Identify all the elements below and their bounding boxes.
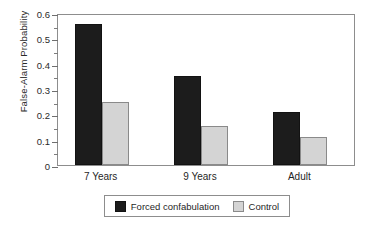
bar-forced-confabulation [273, 112, 300, 165]
chart-legend: Forced confabulationControl [104, 195, 290, 217]
y-tick-label: 0.6 [37, 10, 50, 20]
legend-label: Forced confabulation [131, 201, 220, 212]
y-tick-mark [52, 167, 58, 168]
y-axis-title: False-Alarm Probability [18, 0, 29, 137]
legend-item: Control [233, 201, 280, 212]
bar-forced-confabulation [174, 76, 201, 165]
legend-label: Control [249, 201, 280, 212]
y-tick-label: 0.4 [37, 61, 50, 71]
bar-forced-confabulation [75, 24, 102, 165]
x-axis-category-label: Adult [272, 171, 326, 182]
x-axis-category-label: 9 Years [173, 171, 227, 182]
y-tick-label: 0.3 [37, 86, 50, 96]
y-tick-label: 0.1 [37, 137, 50, 147]
plot-inner: 00.10.20.30.40.50.6 [58, 15, 354, 165]
gray-square-swatch-icon [233, 201, 244, 212]
bar-group [58, 15, 157, 165]
black-square-swatch-icon [115, 201, 126, 212]
plot-area: 00.10.20.30.40.50.6 [57, 14, 355, 166]
y-tick-label: 0 [45, 162, 50, 172]
bar-control [201, 126, 228, 165]
x-axis-category-label: 7 Years [74, 171, 128, 182]
y-tick-label: 0.5 [37, 36, 50, 46]
legend-item: Forced confabulation [115, 201, 220, 212]
y-tick-label: 0.2 [37, 112, 50, 122]
bar-group [157, 15, 256, 165]
bar-control [300, 137, 327, 165]
bar-control [102, 102, 129, 165]
bar-group [257, 15, 356, 165]
bar-chart-figure: False-Alarm Probability 00.10.20.30.40.5… [0, 0, 372, 228]
